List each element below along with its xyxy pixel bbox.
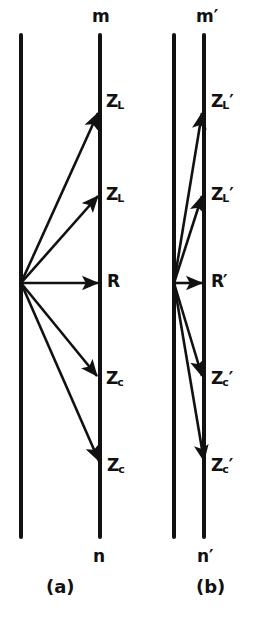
label-subscript: c [118,463,125,476]
label-subscript: c [117,376,124,389]
vector-a-ZL-upper [21,113,98,283]
vector-b-ZL-prime-lower [174,196,202,283]
label-prime: ′ [229,91,233,111]
vector-a-Zc-lower [21,283,99,461]
label-subscript: L [117,192,124,205]
panel-b-top-label: m′ [196,8,218,25]
panel-a-rails [21,35,100,537]
label-a-Zc-upper: Zc [106,370,124,388]
vector-a-Zc-upper [21,283,97,376]
label-prime: ′ [229,455,233,475]
panel-a-caption: (a) [46,578,75,596]
panel-b-vectors [174,113,204,461]
label-prime: ′ [229,368,233,388]
panel-b-caption: (b) [196,578,225,596]
panel-a-top-label: m [92,8,110,25]
panel-a-bottom-label: n [93,548,105,565]
label-b-ZL-prime-upper: ZL′ [211,93,234,111]
vector-a-ZL-lower [21,196,98,283]
label-a-Zc-lower: Zc [107,457,125,475]
label-b-ZL-prime-lower: ZL′ [211,186,234,204]
label-b-Zc-prime-upper: Zc′ [211,370,233,388]
label-prime: ′ [229,184,233,204]
vector-b-ZL-prime-upper [174,113,202,283]
label-b-R-prime: R′ [211,273,228,291]
panel-b-rails [174,35,204,537]
label-a-ZL-lower: ZL [106,186,124,204]
label-base: R [107,271,120,291]
panel-b-bottom-label: n′ [197,548,214,565]
label-b-Zc-prime-lower: Zc′ [211,457,233,475]
label-a-R: R [107,273,119,291]
label-a-ZL-upper: ZL [106,93,124,111]
label-prime: ′ [223,271,227,291]
panel-a-vectors [21,113,99,461]
label-subscript: L [117,99,124,112]
